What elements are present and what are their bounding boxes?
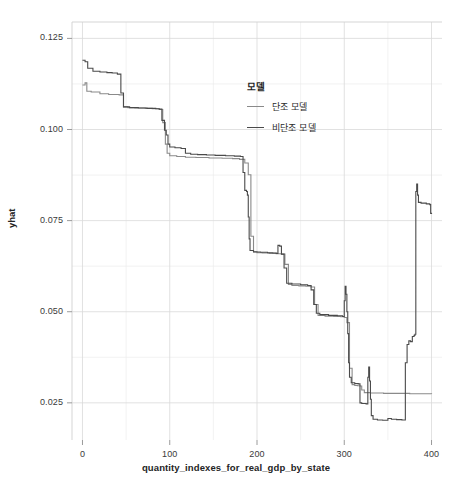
plot-canvas bbox=[0, 0, 472, 494]
y-axis-title: yhat bbox=[6, 208, 17, 228]
x-tick-label: 0 bbox=[62, 449, 102, 459]
y-tick-label: 0.125 bbox=[17, 32, 63, 42]
y-tick-label: 0.100 bbox=[17, 124, 63, 134]
x-tick-label: 200 bbox=[237, 449, 277, 459]
legend-title: 모델 bbox=[247, 79, 316, 93]
chart-figure: 0.0250.0500.0750.1000.125 0100200300400 … bbox=[0, 0, 472, 494]
legend-item-label: 비단조 모델 bbox=[272, 121, 316, 134]
y-tick-label: 0.050 bbox=[17, 306, 63, 316]
legend-item[interactable]: 단조 모델 bbox=[247, 100, 316, 113]
legend-item-label: 단조 모델 bbox=[272, 100, 308, 113]
x-tick-label: 300 bbox=[324, 449, 364, 459]
x-axis-title: quantity_indexes_for_real_gdp_by_state bbox=[0, 462, 472, 473]
legend-color-swatch bbox=[247, 127, 264, 128]
legend-color-swatch bbox=[247, 106, 264, 107]
legend-item[interactable]: 비단조 모델 bbox=[247, 121, 316, 134]
x-tick-label: 400 bbox=[412, 449, 452, 459]
legend-entries: 단조 모델비단조 모델 bbox=[247, 100, 316, 134]
y-tick-label: 0.075 bbox=[17, 215, 63, 225]
x-tick-label: 100 bbox=[150, 449, 190, 459]
legend: 모델 단조 모델비단조 모델 bbox=[247, 79, 316, 142]
y-tick-label: 0.025 bbox=[17, 397, 63, 407]
